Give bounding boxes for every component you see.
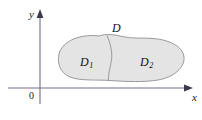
region-label-d: D bbox=[112, 22, 121, 34]
region-label-d2-subscript: 2 bbox=[149, 61, 153, 70]
region-label-d1-base: D bbox=[80, 55, 89, 69]
region-label-d2: D2 bbox=[140, 56, 153, 68]
region-d-outline bbox=[58, 35, 184, 82]
figure-region-decomposition: y x 0 D D1 D2 bbox=[0, 0, 202, 120]
region-label-d2-base: D bbox=[140, 55, 149, 69]
region-label-d1: D1 bbox=[80, 56, 93, 68]
y-axis-label: y bbox=[29, 9, 34, 20]
region-label-d1-subscript: 1 bbox=[89, 61, 93, 70]
y-axis-arrow-icon bbox=[37, 9, 44, 18]
origin-label: 0 bbox=[29, 91, 34, 101]
x-axis-label: x bbox=[192, 92, 197, 103]
